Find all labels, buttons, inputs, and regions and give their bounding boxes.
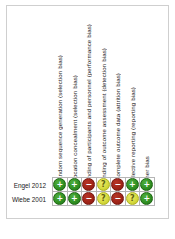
judgement-cell[interactable]: − <box>82 178 97 192</box>
column-header-label: Blinding of participants and personnel (… <box>81 24 96 185</box>
judgement-cell[interactable]: + <box>68 192 83 206</box>
judgement-cell[interactable]: ? <box>126 192 141 206</box>
column-header-other-bias: Other bias <box>139 25 154 185</box>
column-header-allocation-concealment: Allocation concealment (selection bias) <box>67 25 82 185</box>
row-label-study: Engel 2012 <box>7 178 49 192</box>
column-header-selective-reporting: Selective reporting (reporting bias) <box>125 25 140 185</box>
judgement-grid: + + − ? − + + + + − ? − ? + <box>52 177 155 206</box>
judgement-cell[interactable]: ? <box>97 178 112 192</box>
judgement-cell[interactable]: ? <box>97 192 112 206</box>
judgement-cell[interactable]: − <box>111 192 126 206</box>
judgement-cell[interactable]: + <box>126 178 141 192</box>
table-row: + + − ? − ? + <box>53 192 155 206</box>
unclear-risk-icon: ? <box>97 178 110 191</box>
column-header-blinding-outcome-assessment: Blinding of outcome assessment (detectio… <box>96 25 111 185</box>
low-risk-icon: + <box>140 178 153 191</box>
judgement-cell[interactable]: + <box>53 178 68 192</box>
low-risk-icon: + <box>126 178 139 191</box>
low-risk-icon: + <box>68 178 81 191</box>
low-risk-icon: + <box>53 178 66 191</box>
table-row: + + − ? − + + <box>53 178 155 192</box>
unclear-risk-icon: ? <box>97 192 110 205</box>
column-header-label: Blinding of outcome assessment (detectio… <box>96 48 111 185</box>
column-header-label: Incomplete outcome data (attrition bias) <box>110 73 125 185</box>
high-risk-icon: − <box>111 192 124 205</box>
column-header-label: Random sequence generation (selection bi… <box>52 55 67 185</box>
high-risk-icon: − <box>82 178 95 191</box>
judgement-cell[interactable]: − <box>111 178 126 192</box>
column-header-random-sequence-generation: Random sequence generation (selection bi… <box>52 25 67 185</box>
judgement-cell[interactable]: + <box>53 192 68 206</box>
column-header-label: Selective reporting (reporting bias) <box>125 87 140 185</box>
low-risk-icon: + <box>140 192 153 205</box>
column-header-incomplete-outcome-data: Incomplete outcome data (attrition bias) <box>110 25 125 185</box>
column-header-blinding-participants-personnel: Blinding of participants and personnel (… <box>81 25 96 185</box>
row-label-study: Wiebe 2001 <box>7 192 49 206</box>
high-risk-icon: − <box>111 178 124 191</box>
judgement-cell[interactable]: − <box>82 192 97 206</box>
figure-frame: Random sequence generation (selection bi… <box>6 5 169 219</box>
high-risk-icon: − <box>82 192 95 205</box>
judgement-cell[interactable]: + <box>140 192 155 206</box>
risk-of-bias-table: Random sequence generation (selection bi… <box>7 6 170 220</box>
judgement-cell[interactable]: + <box>68 178 83 192</box>
low-risk-icon: + <box>53 192 66 205</box>
column-header-label: Allocation concealment (selection bias) <box>67 75 82 185</box>
judgement-cell[interactable]: + <box>140 178 155 192</box>
unclear-risk-icon: ? <box>126 192 139 205</box>
low-risk-icon: + <box>68 192 81 205</box>
